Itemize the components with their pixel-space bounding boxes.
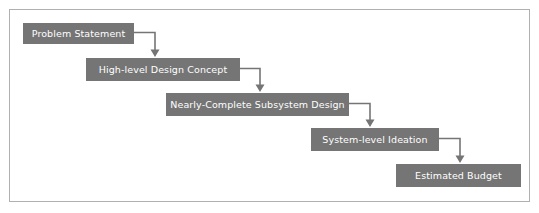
connector-line-4: [438, 139, 460, 158]
flow-node-label: Problem Statement: [32, 29, 126, 39]
flow-node-label: System-level Ideation: [322, 135, 427, 145]
flow-node-high-level-design-concept[interactable]: High-level Design Concept: [86, 58, 240, 81]
diagram-frame: Problem Statement High-level Design Conc…: [9, 9, 530, 202]
connector-edge-2: [239, 69, 265, 93]
connector-line-3: [348, 104, 370, 122]
connector-edge-4: [438, 139, 465, 164]
connector-line-2: [239, 69, 260, 87]
flow-node-problem-statement[interactable]: Problem Statement: [23, 23, 134, 44]
arrowhead-icon-3: [366, 120, 375, 128]
flow-node-estimated-budget[interactable]: Estimated Budget: [396, 164, 521, 187]
flowchart-screenshot: Problem Statement High-level Design Conc…: [0, 0, 539, 213]
flow-node-label: Nearly-Complete Subsystem Design: [170, 100, 344, 110]
connector-line-1: [133, 33, 155, 52]
flow-node-label: High-level Design Concept: [99, 65, 227, 75]
arrowhead-icon-4: [456, 156, 465, 164]
arrowhead-icon-1: [151, 50, 160, 58]
flow-node-nearly-complete-subsystem-design[interactable]: Nearly-Complete Subsystem Design: [166, 93, 349, 116]
arrowhead-icon-2: [256, 85, 265, 93]
flow-node-system-level-ideation[interactable]: System-level Ideation: [311, 128, 439, 151]
flow-node-label: Estimated Budget: [415, 171, 502, 181]
connector-edge-1: [133, 33, 160, 58]
connector-edge-3: [348, 104, 375, 128]
